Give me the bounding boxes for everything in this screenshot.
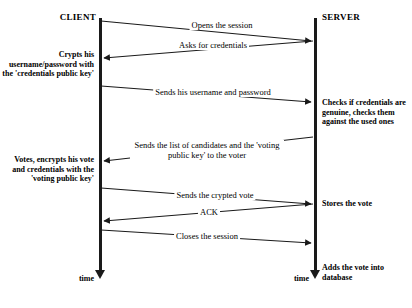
note-server-adds-database: Adds the vote into database	[322, 263, 410, 282]
message-label-close-session: Closes the session	[174, 231, 240, 241]
message-label-ask-credentials: Asks for credentials	[177, 40, 249, 50]
actor-header-server: SERVER	[322, 12, 360, 22]
note-client-encrypts-vote: Votes, encrypts his vote and credentials…	[2, 155, 94, 184]
message-label-send-candidates: Sends the list of candidates and the 'vo…	[130, 140, 284, 160]
message-label-open-session: Opens the session	[190, 20, 255, 30]
lifeline-client	[99, 18, 102, 272]
time-arrow-client-icon	[95, 270, 105, 279]
time-label-client: time	[79, 274, 94, 283]
note-server-checks-credentials: Checks if credentials are genuine, check…	[322, 98, 410, 127]
time-arrow-server-icon	[310, 270, 320, 279]
message-label-ack: ACK	[198, 207, 220, 217]
lifeline-server	[314, 18, 317, 272]
message-label-send-vote: Sends the crypted vote	[174, 190, 255, 200]
sequence-diagram: CLIENT SERVER time time	[0, 0, 412, 308]
note-client-crypts-credentials: Crypts his username/password with the 'c…	[2, 50, 94, 79]
message-label-send-credentials: Sends his username and password	[153, 87, 273, 97]
note-server-stores-vote: Stores the vote	[322, 199, 410, 209]
actor-header-client: CLIENT	[60, 12, 96, 22]
time-label-server: time	[294, 274, 309, 283]
